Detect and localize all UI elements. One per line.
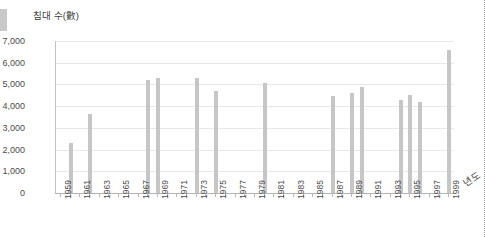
x-tick-label: 1977 [239, 180, 248, 199]
bar [408, 95, 412, 193]
plot-area [55, 41, 454, 194]
x-tick-mark [235, 193, 236, 197]
x-tick-mark [118, 193, 119, 197]
x-tick-mark [312, 193, 313, 197]
x-tick-mark [390, 193, 391, 197]
gridline [56, 63, 454, 64]
bar [214, 91, 218, 193]
bar [146, 80, 150, 193]
edge-artifact [0, 9, 7, 31]
x-tick-mark [138, 193, 139, 197]
x-tick-label: 1989 [355, 180, 364, 199]
x-tick-mark [60, 193, 61, 197]
x-tick-mark [273, 193, 274, 197]
x-tick-label: 1979 [258, 180, 267, 199]
x-tick-label: 1975 [219, 180, 228, 199]
gridline [56, 171, 454, 172]
y-tick-label: 5,000 [0, 80, 25, 89]
bar [350, 93, 354, 193]
x-tick-label: 1991 [374, 180, 383, 199]
bar [263, 83, 267, 193]
x-tick-mark [332, 193, 333, 197]
y-tick-label: 1,000 [0, 167, 25, 176]
y-tick-label: 0 [0, 189, 25, 198]
x-tick-mark [448, 193, 449, 197]
x-tick-label: 1961 [83, 180, 92, 199]
bar [399, 100, 403, 193]
x-tick-label: 1965 [122, 180, 131, 199]
x-tick-mark [176, 193, 177, 197]
x-tick-mark [429, 193, 430, 197]
y-tick-label: 3,000 [0, 124, 25, 133]
x-tick-label: 1981 [277, 180, 286, 199]
x-tick-label: 1971 [180, 180, 189, 199]
y-tick-label: 7,000 [0, 37, 25, 46]
x-tick-mark [79, 193, 80, 197]
bar [331, 96, 335, 193]
x-tick-label: 1983 [297, 180, 306, 199]
y-axis-title: 침대 수(數) [33, 8, 79, 22]
gridline [56, 84, 454, 85]
bar [195, 78, 199, 193]
y-tick-label: 2,000 [0, 146, 25, 155]
x-tick-label: 1985 [316, 180, 325, 199]
bar [360, 87, 364, 193]
x-tick-label: 1963 [103, 180, 112, 199]
x-tick-mark [215, 193, 216, 197]
x-tick-label: 1987 [336, 180, 345, 199]
x-tick-mark [196, 193, 197, 197]
x-tick-label: 1969 [161, 180, 170, 199]
x-tick-mark [293, 193, 294, 197]
x-tick-label: 1997 [433, 180, 442, 199]
x-tick-mark [99, 193, 100, 197]
x-tick-mark [370, 193, 371, 197]
x-tick-mark [409, 193, 410, 197]
bar [156, 78, 160, 193]
y-tick-label: 6,000 [0, 59, 25, 68]
x-tick-label: 1973 [200, 180, 209, 199]
x-tick-mark [157, 193, 158, 197]
bar [447, 50, 451, 193]
x-tick-label: 1995 [413, 180, 422, 199]
gridline [56, 106, 454, 107]
x-tick-mark [254, 193, 255, 197]
x-axis-title: 년도 [460, 168, 483, 190]
x-tick-label: 1967 [142, 180, 151, 199]
chart-frame: 침대 수(數) 01,0002,0003,0004,0005,0006,0007… [0, 0, 485, 237]
x-tick-label: 1993 [394, 180, 403, 199]
y-tick-label: 4,000 [0, 102, 25, 111]
gridline [56, 150, 454, 151]
gridline [56, 41, 454, 42]
x-tick-mark [351, 193, 352, 197]
x-tick-label: 1999 [452, 180, 461, 199]
x-tick-label: 1959 [64, 180, 73, 199]
gridline [56, 128, 454, 129]
